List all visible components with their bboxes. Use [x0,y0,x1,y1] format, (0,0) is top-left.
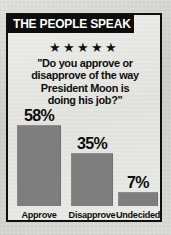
poll-infographic: THE PEOPLE SPEAK ★★★★★ "Do you approve o… [6,13,162,222]
poll-question: "Do you approve or disapprove of the way… [20,57,150,107]
quote-line-2: disapprove of the way [20,69,150,81]
bar-value-disapprove: 35% [77,136,107,152]
bar-approve [17,125,61,206]
bar-label-disapprove: Disapprove [69,210,116,220]
bar-column-approve: 58% Approve [13,103,65,220]
bar-label-approve: Approve [22,210,57,220]
bar-value-undecided: 7% [127,175,149,191]
bar-disapprove [71,153,113,206]
poll-bar-chart: 58% Approve 35% Disapprove 7% Undecided [13,103,159,220]
bar-column-disapprove: 35% Disapprove [63,103,121,220]
banner-title: THE PEOPLE SPEAK [13,18,131,31]
bar-label-undecided: Undecided [116,210,160,220]
bar-column-undecided: 7% Undecided [117,103,159,220]
five-stars-icon: ★★★★★ [8,41,160,54]
title-banner: THE PEOPLE SPEAK [6,15,134,33]
bar-undecided [118,192,158,206]
bar-value-approve: 58% [24,108,54,124]
